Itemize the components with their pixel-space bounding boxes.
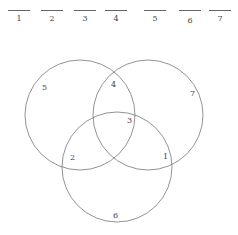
venn-circle-right xyxy=(93,60,203,170)
region-label-1: 1 xyxy=(163,152,168,161)
venn-diagram: 5 4 7 3 2 1 6 xyxy=(0,0,238,235)
venn-circle-bottom xyxy=(62,112,172,222)
region-label-3: 3 xyxy=(127,116,132,125)
venn-circle-left xyxy=(25,60,135,170)
region-label-4: 4 xyxy=(111,80,116,89)
region-label-7: 7 xyxy=(190,89,195,98)
region-label-2: 2 xyxy=(70,153,75,162)
region-label-5: 5 xyxy=(42,83,47,92)
region-label-6: 6 xyxy=(113,211,118,220)
